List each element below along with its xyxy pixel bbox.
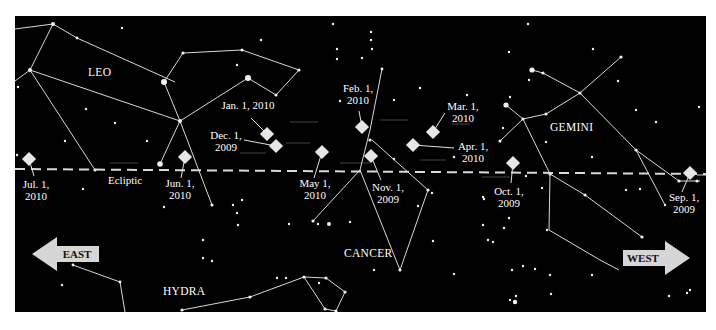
svg-text:2009: 2009: [673, 203, 696, 215]
svg-text:Jun. 1,: Jun. 1,: [165, 177, 194, 189]
svg-text:Oct. 1,: Oct. 1,: [494, 185, 524, 197]
svg-text:2009: 2009: [377, 193, 400, 205]
night-sky-background: [15, 16, 706, 312]
svg-text:May 1,: May 1,: [299, 177, 330, 189]
svg-text:Apr. 1,: Apr. 1,: [458, 140, 489, 152]
svg-text:Feb. 1,: Feb. 1,: [343, 82, 374, 94]
svg-text:2010: 2010: [452, 112, 475, 124]
svg-text:Dec. 1,: Dec. 1,: [210, 129, 242, 141]
svg-text:2009: 2009: [498, 197, 521, 209]
svg-text:2010: 2010: [25, 190, 48, 202]
svg-text:2010: 2010: [304, 189, 327, 201]
constellation-label-hydra: HYDRA: [163, 285, 206, 297]
constellation-label-leo: LEO: [88, 66, 111, 78]
constellation-label-cancer: CANCER: [344, 247, 392, 259]
svg-text:2009: 2009: [215, 141, 238, 153]
svg-text:Sep. 1,: Sep. 1,: [669, 191, 700, 203]
svg-text:2010: 2010: [169, 189, 192, 201]
svg-text:Jan. 1, 2010: Jan. 1, 2010: [221, 99, 275, 111]
svg-text:Jul. 1,: Jul. 1,: [23, 178, 50, 190]
svg-text:WEST: WEST: [627, 252, 659, 264]
star-chart: Ecliptic LEO GEMINI CANCER HYDRA Sep. 1,…: [0, 0, 716, 330]
svg-text:2010: 2010: [462, 152, 485, 164]
constellation-label-gemini: GEMINI: [550, 121, 593, 133]
ecliptic-label: Ecliptic: [108, 174, 142, 186]
svg-text:Mar. 1,: Mar. 1,: [447, 100, 479, 112]
svg-text:EAST: EAST: [63, 248, 92, 260]
svg-text:2010: 2010: [347, 94, 370, 106]
svg-text:Nov. 1,: Nov. 1,: [372, 181, 404, 193]
